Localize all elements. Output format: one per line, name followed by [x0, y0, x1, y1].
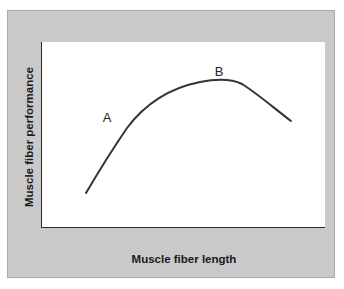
annotation-b: B [215, 64, 224, 79]
performance-curve [0, 0, 344, 289]
x-axis-label: Muscle fiber length [132, 253, 237, 265]
y-axis-label: Muscle fiber performance [23, 67, 35, 207]
annotation-a: A [103, 110, 112, 125]
